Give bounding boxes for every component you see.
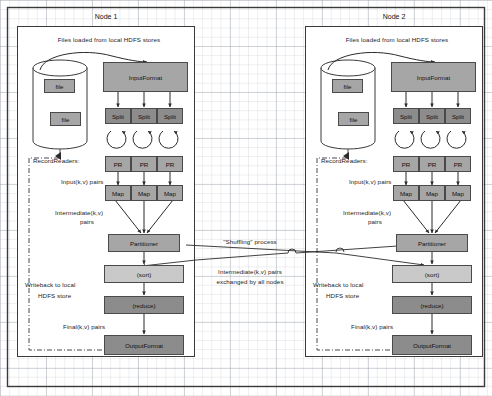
node1-input-pairs-label: Input(k,v) pairs [61, 178, 104, 186]
diagram-canvas: Node 1 Node 2 Files loaded from local HD… [0, 0, 492, 396]
node2-file-2: file [338, 112, 369, 126]
node2-reduce: (reduce) [392, 296, 472, 314]
node2-record-reader-1: PR [393, 156, 419, 172]
node2-partitioner: Partitioner [396, 234, 468, 252]
node1-partitioner: Partitioner [108, 234, 180, 252]
node2-split-2: Split [419, 108, 445, 124]
node1-file-2: file [50, 112, 81, 126]
node2-header-note: Files loaded from local HDFS stores [322, 36, 472, 44]
shuffling-caption-line-1: Intermediate(k,v) pairs [198, 268, 302, 276]
node2-writeback-label-2: HDFS store [326, 292, 359, 300]
shuffling-caption-line-2: exchanged by all nodes [198, 278, 302, 286]
node1-title: Node 1 [46, 13, 166, 20]
node2-input-pairs-label: Input(k,v) pairs [349, 178, 392, 186]
shuffling-process-title: "Shuffling" process [200, 238, 300, 246]
node1-record-reader-2: PR [131, 156, 157, 172]
node2-output-format: OutputFormat [392, 335, 472, 355]
node2-intermediate-pairs-label-2: pairs [368, 218, 382, 226]
node1-intermediate-pairs-label-2: pairs [80, 218, 94, 226]
node1-split-2: Split [131, 108, 157, 124]
node2-file-1: file [332, 79, 363, 93]
node1-record-reader-3: PR [157, 156, 183, 172]
node1-writeback-label-2: HDFS store [38, 292, 71, 300]
node2-map-3: Map [445, 185, 471, 201]
node1-file-1: file [44, 79, 75, 93]
node2-final-pairs-label: Final(k,v) pairs [351, 323, 393, 331]
node1-final-pairs-label: Final(k,v) pairs [63, 323, 105, 331]
node2-map-2: Map [419, 185, 445, 201]
node1-intermediate-pairs-label-1: Intermediate(k,v) [55, 209, 103, 217]
node1-map-3: Map [157, 185, 183, 201]
node2-split-1: Split [393, 108, 419, 124]
node1-map-2: Map [131, 185, 157, 201]
node2-writeback-label-1: Writeback to local [313, 281, 364, 289]
node1-sort: (sort) [104, 265, 184, 283]
node2-map-1: Map [393, 185, 419, 201]
node1-split-3: Split [157, 108, 183, 124]
node2-record-readers-label: RecordReaders: [321, 157, 367, 165]
node1-output-format: OutputFormat [104, 335, 184, 355]
node1-writeback-label-1: Writeback to local [25, 281, 76, 289]
node2-intermediate-pairs-label-1: Intermediate(k,v) [343, 209, 391, 217]
node1-header-note: Files loaded from local HDFS stores [34, 36, 184, 44]
node2-split-3: Split [445, 108, 471, 124]
node1-map-1: Map [105, 185, 131, 201]
node1-record-readers-label: RecordReaders: [33, 157, 79, 165]
node2-title: Node 2 [334, 13, 454, 20]
node2-record-reader-2: PR [419, 156, 445, 172]
node2-sort: (sort) [392, 265, 472, 283]
node1-reduce: (reduce) [104, 296, 184, 314]
node1-record-reader-1: PR [105, 156, 131, 172]
node1-input-format: InputFormat [103, 62, 188, 92]
node2-input-format: InputFormat [391, 62, 476, 92]
node2-record-reader-3: PR [445, 156, 471, 172]
node1-split-1: Split [105, 108, 131, 124]
